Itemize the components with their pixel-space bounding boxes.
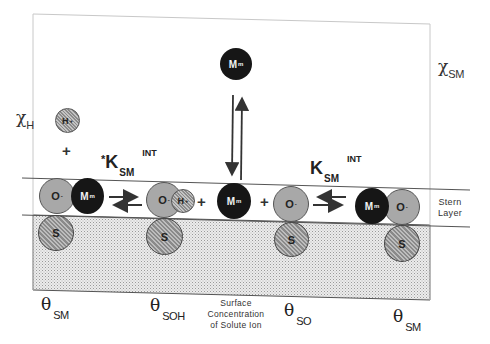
plus-sign-proton: +	[62, 142, 71, 159]
site2-proton-ion: H+	[171, 189, 195, 213]
adsorption-arrow-down	[232, 95, 233, 173]
site4-metal-ion: Mm	[355, 188, 389, 224]
diagram-canvas: Mm H+ + χH χSM *KSMINT KSMINT S O- Mm S …	[0, 0, 490, 344]
desorption-arrow-up	[241, 100, 242, 180]
site3-surface-atom: S	[274, 222, 309, 257]
stern-layer-label: Stern Layer	[438, 197, 462, 219]
site2-surface-atom: S	[146, 218, 183, 255]
site3-oxygen-ion: O-	[273, 186, 309, 222]
theta-so-label: θSO	[284, 300, 311, 327]
stern-metal-ion: Mm	[217, 183, 251, 219]
right-equilibrium-constant: KSMINT	[310, 158, 362, 179]
surface-concentration-caption: Surface Concentration of Solute Ion	[201, 298, 271, 331]
site1-metal-ion: Mm	[71, 178, 104, 214]
solid-phase-region	[33, 215, 430, 300]
solution-metal-ion: Mm	[220, 48, 252, 80]
site4-surface-atom: S	[384, 225, 420, 262]
solution-proton-ion: H+	[55, 108, 80, 133]
theta-sm-right-label: θSM	[393, 306, 421, 333]
chi-sm-label: χSM	[438, 56, 464, 80]
site1-oxygen-ion: O-	[39, 178, 75, 214]
theta-soh-label: θSOH	[150, 295, 185, 322]
site1-surface-atom: S	[38, 215, 74, 251]
site4-oxygen-ion: O-	[384, 189, 420, 225]
plus-sign-1: +	[197, 193, 206, 210]
plus-sign-2: +	[260, 193, 269, 210]
theta-sm-left-label: θSM	[41, 294, 69, 321]
chi-h-label: χH	[16, 107, 34, 131]
left-equilibrium-constant: *KSMINT	[101, 152, 157, 173]
